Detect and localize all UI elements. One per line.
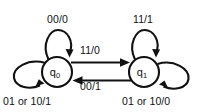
transition-loop-q0-path (46, 30, 71, 60)
transition-self-q0 (14, 62, 46, 88)
state-q1-subscript: 1 (143, 70, 147, 79)
transition-self-q0-arrowhead (36, 79, 45, 86)
transition-loop-q1-label: 11/1 (133, 13, 153, 25)
transition-self-q0-label: 01 or 10/1 (3, 95, 51, 107)
transition-self-q1 (158, 63, 189, 89)
transition-loop-q1 (132, 30, 160, 60)
transition-q0-to-q1-label: 11/0 (80, 44, 100, 56)
transition-loop-q1-path (132, 30, 157, 60)
transition-q1-to-q0-label: 00/1 (80, 80, 101, 92)
state-q0-subscript: 0 (56, 70, 60, 79)
transition-loop-q0 (46, 30, 74, 60)
state-machine-diagram: q0 q1 00/0 11/1 11/0 00/1 01 or 10/1 01 … (0, 0, 206, 112)
state-q0[interactable]: q0 (42, 57, 72, 87)
transition-q0-to-q1 (71, 58, 130, 67)
transition-self-q1-label: 01 or 10/0 (122, 95, 170, 107)
transition-loop-q0-label: 00/0 (47, 13, 68, 25)
transition-loop-q1-arrowhead (152, 49, 160, 58)
state-q1[interactable]: q1 (129, 57, 159, 87)
transition-loop-q0-arrowhead (66, 49, 74, 58)
transition-q0-to-q1-arrowhead (120, 58, 130, 67)
